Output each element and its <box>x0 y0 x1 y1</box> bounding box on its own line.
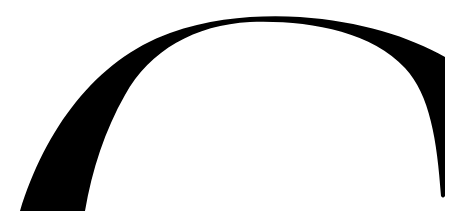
arch-graphic <box>0 0 472 219</box>
